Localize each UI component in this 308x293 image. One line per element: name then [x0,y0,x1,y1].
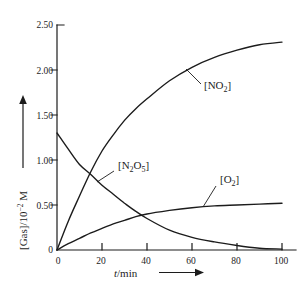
x-tick-0: 0 [56,256,61,266]
kinetics-figure: 0 0.50 1.00 1.50 2.00 2.50 0 20 40 60 80… [0,0,308,293]
x-axis-arrowhead-icon [195,269,204,276]
y-tick-150: 1.50 [36,111,53,121]
x-tick-60: 60 [186,256,196,266]
y-axis-arrowhead-icon [19,95,27,104]
y-axis-title: [Gas]/10−2 M [16,191,29,250]
y-tick-200: 2.00 [36,66,53,76]
curve-n2o5 [57,133,282,249]
x-tick-40: 40 [141,256,151,266]
chart-canvas: 0 0.50 1.00 1.50 2.00 2.50 0 20 40 60 80… [0,0,308,293]
x-tick-labels: 0 20 40 60 80 100 [56,256,289,266]
n2o5-leader-line [97,171,114,182]
o2-curve-label: [O2] [220,173,239,188]
no2-curve-label: [NO2] [204,79,231,94]
n2o5-curve-label: [N2O5] [118,159,149,174]
axes [51,25,296,250]
x-tick-100: 100 [274,256,289,266]
y-tick-250: 2.50 [36,20,53,30]
curve-o2 [57,203,282,250]
no2-leader-line [186,69,201,84]
y-tick-100: 1.00 [36,156,53,166]
curves [57,42,282,250]
y-tick-labels: 0 0.50 1.00 1.50 2.00 2.50 [36,20,53,255]
leader-lines [97,69,216,207]
y-tick-050: 0.50 [36,201,53,211]
y-tick-0: 0 [48,245,53,255]
x-tick-80: 80 [231,256,241,266]
y-axis-arrow [19,95,27,168]
x-tick-20: 20 [96,256,106,266]
x-axis-arrow [159,269,204,276]
x-axis-title: t/min [114,267,138,279]
x-axis-ticks [102,244,282,251]
o2-leader-line [203,186,216,207]
curve-no2 [57,42,282,250]
